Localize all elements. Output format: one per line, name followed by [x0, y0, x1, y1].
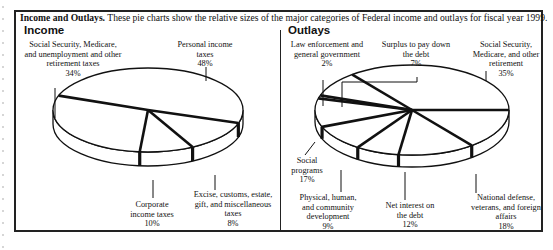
label-pct: 18% [464, 222, 548, 232]
outlays-label-physical-human: Physical, human, and community developme… [293, 193, 363, 231]
label-line: general government [287, 50, 367, 60]
label-pct: 12% [375, 220, 445, 230]
label-pct: 8% [188, 219, 278, 229]
outlays-label-law-enforcement: Law enforcement and general government 2… [287, 40, 367, 69]
label-line: Corporate [122, 200, 182, 210]
outlays-label-social-security: Social Security, Medicare, and other ret… [466, 40, 546, 78]
outlays-label-social-programs: Social programs 17% [287, 156, 327, 185]
label-line: Personal income [170, 40, 240, 50]
label-pct: 48% [170, 59, 240, 69]
label-line: Net interest on [375, 201, 445, 211]
label-line: retirement taxes [18, 59, 128, 69]
label-line: National defense, [464, 193, 548, 203]
outlays-label-net-interest: Net interest on the debt 12% [375, 201, 445, 230]
label-line: Social [287, 156, 327, 166]
label-pct: 35% [466, 69, 546, 79]
label-line: Law enforcement and [287, 40, 367, 50]
outlays-label-defense: National defense, veterans, and foreign … [464, 193, 548, 231]
label-line: Excise, customs, estate, [188, 190, 278, 200]
label-pct: 34% [18, 69, 128, 79]
income-label-personal: Personal income taxes 48% [170, 40, 240, 69]
income-label-corporate: Corporate income taxes 10% [122, 200, 182, 229]
label-pct: 9% [293, 222, 363, 232]
label-pct: 17% [287, 175, 327, 185]
label-line: Medicare, and other [466, 50, 546, 60]
label-line: income taxes [122, 210, 182, 220]
label-pct: 7% [376, 59, 456, 69]
label-line: retirement [466, 59, 546, 69]
label-line: Social Security, Medicare, [18, 40, 128, 50]
outlays-label-surplus: Surplus to pay down the debt 7% [376, 40, 456, 69]
label-line: programs [287, 166, 327, 176]
label-line: Surplus to pay down [376, 40, 456, 50]
label-line: gift, and miscellaneous [188, 200, 278, 210]
label-line: the debt [376, 50, 456, 60]
label-line: veterans, and foreign [464, 203, 548, 213]
label-pct: 2% [287, 59, 367, 69]
income-label-social-security: Social Security, Medicare, and unemploym… [18, 40, 128, 78]
label-line: affairs [464, 212, 548, 222]
label-line: development [293, 212, 363, 222]
label-line: the debt [375, 211, 445, 221]
label-line: and unemployment and other [18, 50, 128, 60]
label-line: Social Security, [466, 40, 546, 50]
label-line: Physical, human, [293, 193, 363, 203]
income-label-excise: Excise, customs, estate, gift, and misce… [188, 190, 278, 228]
label-line: taxes [188, 209, 278, 219]
label-line: and community [293, 203, 363, 213]
label-line: taxes [170, 50, 240, 60]
label-pct: 10% [122, 219, 182, 229]
